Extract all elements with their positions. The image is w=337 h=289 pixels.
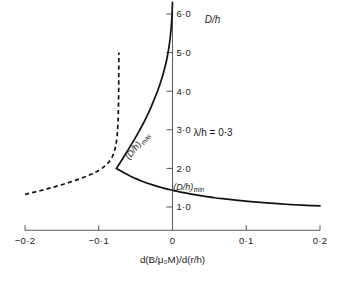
- x-tick-label: −0·2: [15, 235, 35, 246]
- x-tick-label: 0·1: [239, 235, 254, 246]
- y-tick-label: 2·0: [177, 163, 192, 174]
- y-tick-label: 4·0: [177, 86, 192, 97]
- y-tick-label: 3·0: [177, 124, 192, 135]
- x-tick-label: −0·1: [89, 235, 109, 246]
- y-tick-label: 1·0: [177, 201, 192, 212]
- curve-annotation-subscript: min: [194, 186, 205, 193]
- x-tick-label: 0: [170, 235, 176, 246]
- figure-container: −0·2−0·100·10·21·02·03·04·05·06·0 (D/h)m…: [0, 0, 337, 289]
- x-tick-label: 0·2: [313, 235, 328, 246]
- plot-canvas: −0·2−0·100·10·21·02·03·04·05·06·0 (D/h)m…: [0, 0, 337, 289]
- y-tick-label: 5·0: [177, 47, 192, 58]
- y-axis-title: D/h: [205, 14, 221, 25]
- x-axis-title: d(B/μ₀M)/d(r/h): [140, 254, 205, 265]
- annotation-lambda-over-h: λ/h = 0·3: [193, 127, 233, 138]
- plot-background: [0, 0, 337, 289]
- y-tick-label: 6·0: [177, 8, 192, 19]
